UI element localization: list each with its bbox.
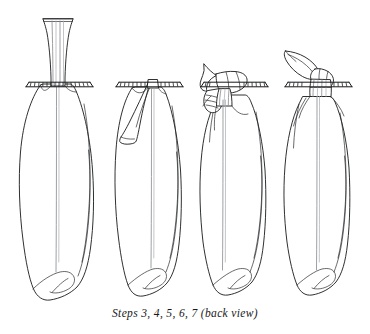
- panel-step-3: [19, 19, 93, 300]
- tied-stem-4: [284, 51, 333, 97]
- sack-body-2: [115, 87, 181, 296]
- panel-step-5-6: [200, 64, 268, 295]
- centre-line-1: [56, 86, 57, 272]
- panel-step-4: [115, 80, 183, 297]
- figure-caption: Steps 3, 4, 5, 6, 7 (back view): [0, 303, 370, 321]
- caption-text: Steps 3, 4, 5, 6, 7 (back view): [112, 307, 258, 319]
- sack-body-3: [200, 95, 266, 295]
- diagram-canvas: [0, 0, 370, 334]
- gathered-stem-1: [43, 19, 73, 86]
- illustration-figure: Steps 3, 4, 5, 6, 7 (back view): [0, 0, 370, 334]
- panel-step-7: [284, 51, 352, 295]
